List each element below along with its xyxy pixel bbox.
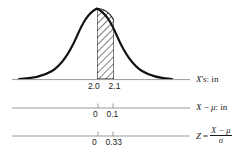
tick-label-z-0: 0	[92, 138, 97, 147]
axis-label-x-minus-mu-scale: X − μ: in	[196, 103, 227, 112]
tick-label-x-2-0: 2.0	[88, 82, 100, 91]
tick-label-xmu-0: 0	[93, 110, 98, 119]
axis-label-z-scale: Z = X − μ σ	[196, 127, 232, 147]
tick-label-z-0-33: 0.33	[105, 138, 122, 147]
axis-label-x-scale: X's: in	[196, 75, 218, 84]
axis-label-x-suffix: 's: in	[202, 74, 219, 84]
axis-label-xmu-suffix: : in	[216, 102, 228, 112]
z-formula-numerator: X − μ	[210, 126, 231, 135]
tick-labels-z-scale: 0 0.33	[92, 138, 122, 147]
tick-labels-x-minus-mu-scale: 0 0.1	[93, 110, 118, 119]
axis-label-z-equals: =	[203, 132, 208, 141]
normal-curve	[19, 9, 172, 80]
tick-label-x-2-1: 2.1	[109, 82, 121, 91]
tick-label-xmu-0-1: 0.1	[106, 110, 118, 119]
axis-label-xmu-operator: −	[202, 102, 212, 112]
z-formula-fraction: X − μ σ	[210, 126, 231, 146]
axis-label-z-lhs: Z	[196, 132, 201, 141]
z-formula-denominator: σ	[210, 135, 231, 146]
tick-labels-x-scale: 2.0 2.1	[88, 82, 120, 91]
shaded-region	[97, 8, 114, 79]
